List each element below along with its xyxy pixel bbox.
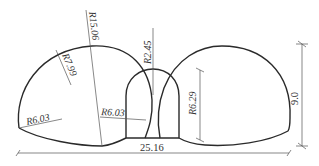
label-r7-99: R7.99 [60,51,80,78]
label-r6-03-middle: R6.03 [100,106,125,118]
label-width-25-16: 25.16 [140,142,164,153]
label-r6-29: R6.29 [187,91,198,116]
left-tunnel-invert [19,128,126,146]
label-r2-45: R2.45 [142,40,153,65]
label-r6-03-left: R6.03 [24,111,50,127]
tunnel-cross-section-diagram: R15.06 R7.99 R6.03 R6.03 R2.45 R6.29 9.0… [0,0,319,166]
label-height-9-0: 9.0 [289,92,300,105]
right-tunnel-invert [179,131,288,145]
